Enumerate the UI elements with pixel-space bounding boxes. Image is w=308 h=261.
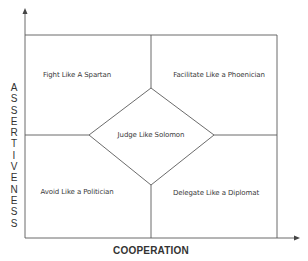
y-axis-arrow-icon [23,8,28,14]
y-letter: S [11,206,18,217]
y-letter: I [13,150,16,161]
y-letter: E [11,195,18,206]
y-letter: S [11,105,18,116]
quadrant-top-right: Facilitate Like a Phoenician [173,71,265,79]
x-axis-label: COOPERATION [113,245,189,256]
y-letter: E [11,172,18,183]
y-letter: N [10,184,17,195]
y-letter: S [11,93,18,104]
y-letter: R [10,127,17,138]
x-axis-arrow-icon [294,236,300,241]
y-letter: A [11,82,18,93]
y-letter: V [11,161,18,172]
y-letter: S [11,218,18,229]
y-letter: T [11,138,17,149]
center-label: Judge Like Solomon [118,131,185,139]
y-letter: E [11,116,18,127]
quadrant-top-left: Fight Like A Spartan [43,71,111,79]
quadrant-bottom-left: Avoid Like a Politician [40,188,113,196]
quadrant-bottom-right: Delegate Like a Diplomat [173,189,259,197]
y-axis-label: A S S E R T I V E N E S S [8,82,20,229]
